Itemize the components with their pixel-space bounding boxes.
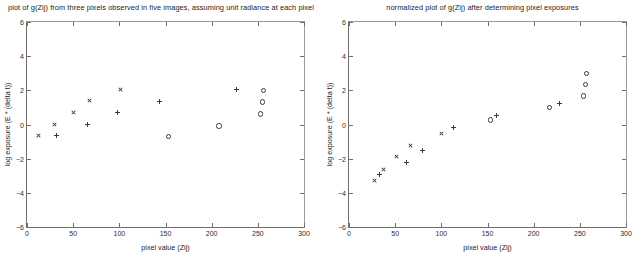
x-tick [441,223,442,227]
y-tick-label: 2 [342,87,346,94]
x-tick-mirror [258,22,259,26]
x-tick-label: 300 [298,230,310,237]
chart-right-y-axis-title-text: log exposure (E * (delta t)) [325,83,334,167]
x-tick-mirror [304,22,305,26]
x-tick [580,223,581,227]
y-tick-label: −2 [16,155,24,162]
x-tick-mirror [580,22,581,26]
chart-right-title: normalized plot of g(Zij) after determin… [322,3,643,12]
x-tick [119,223,120,227]
figure-page: plot of g(Zij) from three pixels observe… [0,0,643,274]
x-tick-mirror [441,22,442,26]
x-tick [395,223,396,227]
x-tick-label: 250 [252,230,264,237]
chart-left-y-axis-title: log exposure (E * (delta t)) [2,21,13,228]
y-tick-mirror [622,125,626,126]
x-tick [73,223,74,227]
x-tick [626,223,627,227]
chart-left-axes: −6−4−20246050100150200250300 [26,21,305,228]
y-tick [349,193,353,194]
x-tick [488,223,489,227]
y-tick-mirror [300,125,304,126]
y-tick-label: 6 [20,19,24,26]
x-tick-mirror [626,22,627,26]
x-tick-label: 100 [113,230,125,237]
x-tick-mirror [212,22,213,26]
y-tick-mirror [300,193,304,194]
x-tick [534,223,535,227]
y-tick [349,159,353,160]
chart-left-y-axis-title-text: log exposure (E * (delta t)) [3,83,12,167]
chart-right: normalized plot of g(Zij) after determin… [322,0,643,274]
x-tick-label: 100 [435,230,447,237]
chart-right-plot-area: −6−4−20246050100150200250300 [349,22,626,227]
x-tick-mirror [119,22,120,26]
y-tick-label: 2 [20,87,24,94]
y-tick-mirror [300,56,304,57]
y-tick [349,90,353,91]
y-tick-label: 0 [20,121,24,128]
x-tick-mirror [27,22,28,26]
x-tick-mirror [395,22,396,26]
y-tick-mirror [300,90,304,91]
y-tick-label: −4 [338,189,346,196]
chart-right-x-axis-title: pixel value (Zij) [348,243,627,252]
y-tick-label: 6 [342,19,346,26]
y-tick-label: −2 [338,155,346,162]
chart-right-y-axis-title: log exposure (E * (delta t)) [324,21,335,228]
x-tick [349,223,350,227]
y-tick [349,56,353,57]
x-tick [304,223,305,227]
y-tick-label: 4 [20,53,24,60]
y-tick-label: 4 [342,53,346,60]
x-tick-label: 0 [25,230,29,237]
x-tick-mirror [73,22,74,26]
x-tick-mirror [488,22,489,26]
chart-left-plot-area: −6−4−20246050100150200250300 [27,22,304,227]
y-tick-mirror [300,227,304,228]
y-tick-label: 0 [342,121,346,128]
x-tick-mirror [534,22,535,26]
chart-right-axes: −6−4−20246050100150200250300 [348,21,627,228]
x-tick [212,223,213,227]
chart-left-title: plot of g(Zij) from three pixels observe… [0,3,322,12]
x-tick-mirror [166,22,167,26]
chart-left-x-axis-title: pixel value (Zij) [26,243,305,252]
chart-left: plot of g(Zij) from three pixels observe… [0,0,322,274]
x-tick-label: 50 [69,230,77,237]
y-tick-mirror [622,227,626,228]
y-tick-mirror [622,193,626,194]
x-tick-label: 0 [347,230,351,237]
x-tick-label: 50 [391,230,399,237]
x-tick-label: 250 [574,230,586,237]
y-tick-mirror [622,56,626,57]
x-tick [27,223,28,227]
y-tick [349,227,353,228]
x-tick-label: 200 [206,230,218,237]
y-tick [27,90,31,91]
y-tick [27,159,31,160]
y-tick [349,125,353,126]
y-tick [27,125,31,126]
x-tick-label: 200 [528,230,540,237]
y-tick [27,193,31,194]
y-tick-label: −4 [16,189,24,196]
y-tick [27,227,31,228]
y-tick-label: −6 [338,224,346,231]
x-tick-label: 300 [620,230,632,237]
x-tick [166,223,167,227]
x-tick [258,223,259,227]
y-tick-label: −6 [16,224,24,231]
y-tick-mirror [622,159,626,160]
y-tick-mirror [622,90,626,91]
x-tick-mirror [349,22,350,26]
x-tick-label: 150 [160,230,172,237]
x-tick-label: 150 [482,230,494,237]
y-tick [27,56,31,57]
y-tick-mirror [300,159,304,160]
